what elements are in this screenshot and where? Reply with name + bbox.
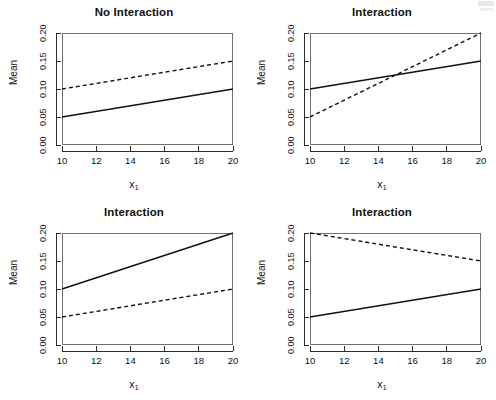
scan-artifact-secondary xyxy=(480,8,493,11)
panel-grid: No Interaction Mean x1 0.000.050.100.150… xyxy=(0,0,496,400)
series-line-solid xyxy=(310,289,481,317)
plot-canvas xyxy=(0,200,248,400)
series-line-solid xyxy=(62,233,233,289)
plot-canvas xyxy=(0,0,248,200)
plot-canvas xyxy=(248,200,496,400)
panel-3: Interaction Mean x1 0.000.050.100.150.20… xyxy=(248,200,496,400)
series-line-dashed xyxy=(62,61,233,89)
scan-artifact xyxy=(478,1,494,6)
panel-2: Interaction Mean x1 0.000.050.100.150.20… xyxy=(0,200,248,400)
series-line-dashed xyxy=(310,233,481,261)
panel-0: No Interaction Mean x1 0.000.050.100.150… xyxy=(0,0,248,200)
series-line-solid xyxy=(310,61,481,89)
panel-1: Interaction Mean x1 0.000.050.100.150.20… xyxy=(248,0,496,200)
plot-canvas xyxy=(248,0,496,200)
series-line-solid xyxy=(62,89,233,117)
series-line-dashed xyxy=(62,289,233,317)
